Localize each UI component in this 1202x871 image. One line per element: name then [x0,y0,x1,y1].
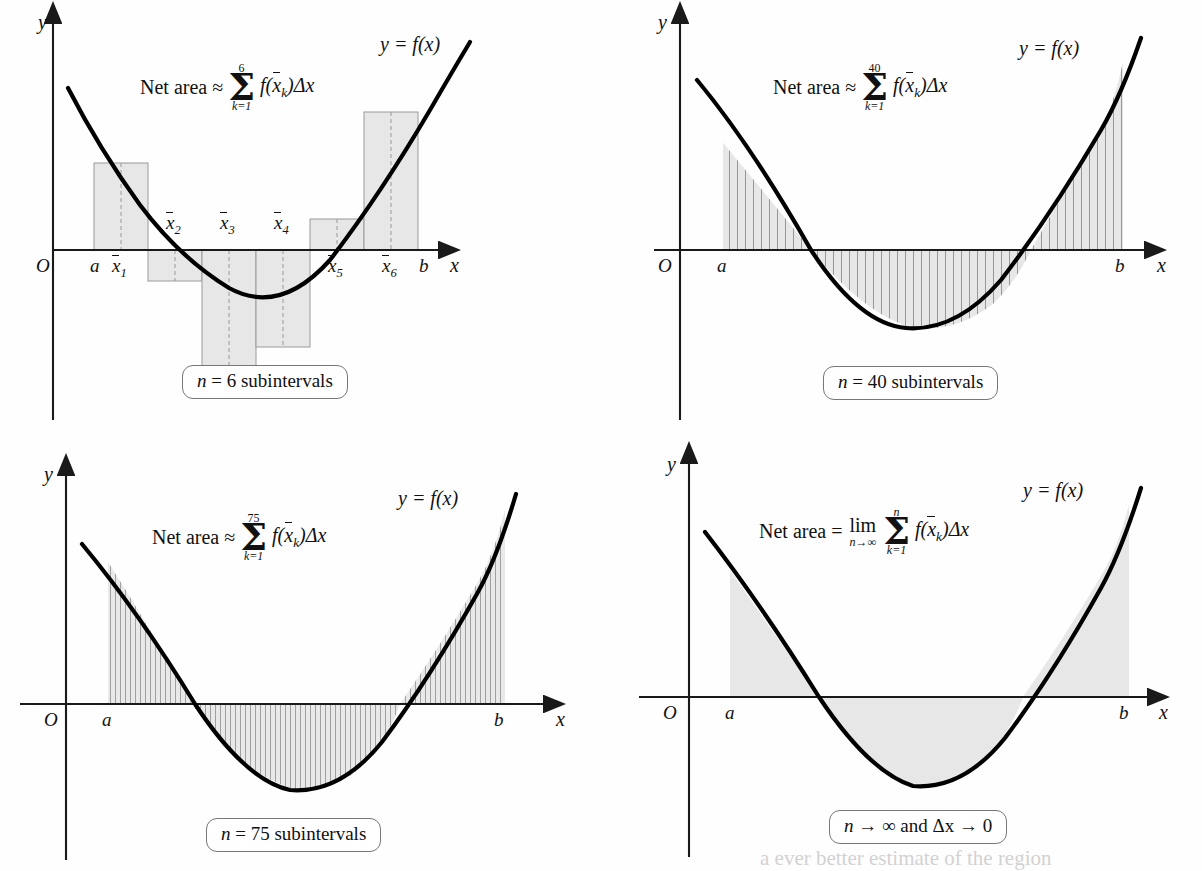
net-area-text: Net area [140,76,207,99]
sigma-glyph: Σ [883,515,910,546]
summand: f(xk)Δx [272,524,326,551]
origin-label: O [36,256,50,275]
panel-n40: y x O a b y = f(x) Net area ≈ 40 Σ k=1 f… [601,0,1202,432]
net-area-formula: Net area = lim n→∞ n Σ k=1 f(xk)Δx [759,506,969,556]
net-area-formula: Net area ≈ 40 Σ k=1 f(xk)Δx [773,62,947,112]
limit-subscript: n→∞ [850,536,877,548]
x-axis-label: x [450,255,459,275]
sigma-glyph: Σ [240,521,267,552]
function-label: y = f(x) [398,488,458,508]
summation-symbol: n Σ k=1 [883,506,910,556]
y-axis-label: y [658,12,667,32]
caption-n: n [844,815,854,836]
a-label: a [717,256,727,275]
panel-caption-limit: n → ∞ and Δx → 0 [829,810,1007,844]
summand: f(xk)Δx [893,74,947,101]
approx-sign: ≈ [224,526,235,549]
approx-sign: ≈ [212,76,223,99]
panel-n75: y x O a b y = f(x) Net area ≈ 75 Σ k=1 f… [0,432,601,864]
panel-n6: y x O a b y = f(x) x1 x2 x3 x4 x5 x6 Net… [0,0,601,432]
net-area-text: Net area [773,76,840,99]
sigma-glyph: Σ [861,71,888,102]
x-axis-label: x [1159,702,1168,722]
a-label: a [90,256,100,275]
x-bar-6: x6 [382,256,397,279]
net-area-formula: Net area ≈ 75 Σ k=1 f(xk)Δx [152,512,326,562]
sum-lower-limit: k=1 [865,100,884,112]
summand: f(xk)Δx [915,518,969,545]
caption-n: n [838,371,848,392]
x-axis-label: x [1157,255,1166,275]
approx-sign: ≈ [845,76,856,99]
b-label: b [494,710,504,729]
sum-lower-limit: k=1 [244,550,263,562]
b-label: b [1115,256,1125,275]
caption-rest: = 75 subintervals [235,823,366,844]
x-bar-2: x2 [166,213,181,236]
sum-lower-limit: k=1 [232,100,251,112]
caption-n: n [221,823,231,844]
equals-sign: = [831,520,842,543]
panel-caption-n6: n = 6 subintervals [182,365,348,399]
summand: f(xk)Δx [260,74,314,101]
summation-symbol: 40 Σ k=1 [861,62,888,112]
net-area-formula: Net area ≈ 6 Σ k=1 f(xk)Δx [140,62,314,112]
limit-operator: lim n→∞ [849,515,876,548]
origin-label: O [658,256,672,275]
sigma-glyph: Σ [228,71,255,102]
sum-lower-limit: k=1 [887,544,906,556]
x-bar-4: x4 [274,213,289,236]
summation-symbol: 75 Σ k=1 [240,512,267,562]
net-area-text: Net area [759,520,826,543]
panel-caption-n75: n = 75 subintervals [206,818,381,852]
limit-word: lim [849,515,876,535]
function-label: y = f(x) [380,34,440,54]
function-label: y = f(x) [1023,480,1083,500]
summation-symbol: 6 Σ k=1 [228,62,255,112]
y-axis-label: y [667,454,676,474]
riemann-rectangles [94,112,418,369]
caption-rest: = 6 subintervals [211,370,333,391]
panel-caption-n40: n = 40 subintervals [823,366,998,400]
x-bar-1: x1 [112,256,127,279]
caption-rest: = 40 subintervals [852,371,983,392]
function-label: y = f(x) [1019,38,1079,58]
panel-n75-plot [0,432,601,864]
x-bar-5: x5 [328,256,343,279]
x-bar-3: x3 [220,213,235,236]
y-axis-label: y [38,12,47,32]
a-label: a [725,703,735,722]
b-label: b [1119,703,1129,722]
panel-limit: y x O a b y = f(x) Net area = lim n→∞ n … [601,432,1202,864]
y-axis-label: y [44,464,53,484]
net-area-text: Net area [152,526,219,549]
caption-n: n [197,370,207,391]
x-axis-label: x [556,709,565,729]
origin-label: O [663,703,677,722]
page-bleed-text: a ever better estimate of the region [760,846,1052,871]
a-label: a [102,710,112,729]
panel-limit-plot [601,432,1202,864]
caption-rest: → ∞ and Δx → 0 [858,815,992,836]
origin-label: O [44,710,58,729]
b-label: b [419,256,429,275]
